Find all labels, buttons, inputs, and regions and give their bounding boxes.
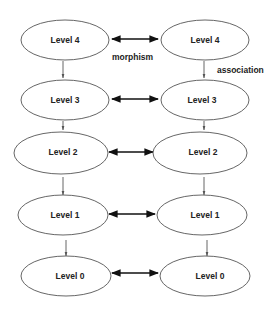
node-label: Level 3: [51, 95, 80, 105]
node-label: Level 1: [191, 210, 220, 220]
node-right-level-1: Level 1: [157, 195, 247, 235]
node-label: Level 1: [51, 210, 80, 220]
node-left-level-2: Level 2: [14, 132, 108, 174]
node-right-level-3: Level 3: [161, 80, 249, 120]
association-label: association: [217, 65, 264, 75]
node-right-level-0: Level 0: [160, 256, 250, 296]
node-label: Level 2: [49, 147, 78, 157]
node-label: Level 4: [191, 35, 220, 45]
node-label: Level 0: [56, 271, 85, 281]
morphism-label: morphism: [112, 52, 154, 62]
node-left-level-1: Level 1: [18, 195, 108, 235]
node-left-level-4: Level 4: [21, 20, 109, 60]
node-left-level-0: Level 0: [21, 256, 111, 296]
node-label: Level 4: [51, 35, 80, 45]
node-left-level-3: Level 3: [21, 80, 109, 120]
node-right-level-4: Level 4: [161, 20, 249, 60]
level-diagram: morphism association Level 4 Level 3 Lev…: [0, 0, 279, 315]
node-right-level-2: Level 2: [153, 132, 247, 174]
node-label: Level 2: [189, 147, 218, 157]
node-label: Level 0: [196, 271, 225, 281]
node-label: Level 3: [188, 95, 217, 105]
